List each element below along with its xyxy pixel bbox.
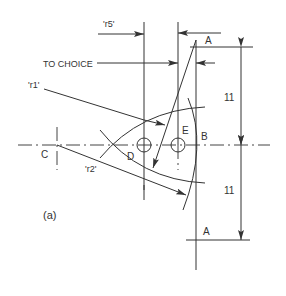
label-r2: 'r2' [85, 164, 97, 174]
label-b: B [201, 131, 208, 142]
radius-line-a-d [153, 40, 196, 168]
figure-caption: (a) [43, 209, 56, 221]
profile-arc-right [183, 98, 197, 210]
label-e: E [182, 125, 189, 136]
r1-leader [44, 89, 165, 125]
label-r1: 'r1' [28, 80, 40, 90]
label-r5: 'r5' [103, 19, 115, 29]
profile-arc-lower [100, 130, 205, 183]
profile-arc-upper [100, 107, 205, 158]
label-a-top: A [205, 35, 212, 46]
label-c: C [41, 149, 48, 160]
label-d: D [127, 151, 134, 162]
label-to-choice: TO CHOICE [43, 59, 93, 69]
cam-profile-diagram: 'r5' TO CHOICE 'r1' 'r2' A A B C D E 11 … [0, 0, 286, 296]
dimension-upper-value: 11 [224, 92, 235, 103]
label-a-bottom: A [203, 226, 210, 237]
dimension-lower-value: 11 [224, 185, 235, 196]
